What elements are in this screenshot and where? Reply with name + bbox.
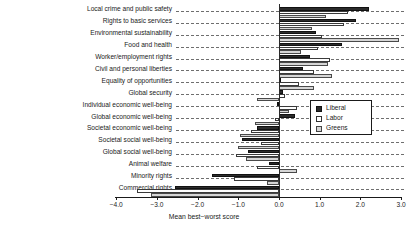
bar-greens bbox=[279, 86, 314, 90]
bar-liberal bbox=[279, 114, 295, 118]
x-tick-label: 1.0 bbox=[315, 201, 324, 208]
legend-item-labor[interactable]: Labor bbox=[316, 114, 343, 123]
x-tick-label: −3.0 bbox=[150, 201, 163, 208]
bar-greens bbox=[255, 122, 279, 126]
bar-chart: Local crime and public safetyRights to b… bbox=[0, 0, 408, 233]
legend-label-liberal: Liberal bbox=[326, 105, 346, 112]
gridline bbox=[176, 94, 404, 95]
legend-swatch-greens-icon bbox=[316, 126, 322, 132]
x-axis-label: Mean best−worst score bbox=[0, 213, 408, 220]
x-tick bbox=[238, 197, 239, 200]
zero-reference-line bbox=[279, 4, 280, 197]
bar-greens bbox=[238, 146, 279, 150]
bar-greens bbox=[267, 181, 279, 185]
legend-item-greens[interactable]: Greens bbox=[316, 124, 348, 133]
gridline bbox=[176, 178, 404, 179]
bar-greens bbox=[279, 27, 312, 31]
x-axis-line bbox=[115, 197, 401, 198]
bar-greens bbox=[240, 134, 279, 138]
bar-greens bbox=[279, 15, 326, 19]
bar-greens bbox=[279, 38, 399, 42]
legend-swatch-liberal-icon bbox=[316, 106, 322, 112]
bar-greens bbox=[279, 62, 328, 66]
gridline bbox=[176, 154, 404, 155]
chart-legend: Liberal Labor Greens bbox=[310, 100, 372, 135]
gridline bbox=[176, 166, 404, 167]
bar-labor bbox=[257, 166, 279, 170]
bar-greens bbox=[279, 169, 297, 173]
x-tick-label: 3.0 bbox=[397, 201, 406, 208]
bar-greens bbox=[279, 74, 332, 78]
legend-item-liberal[interactable]: Liberal bbox=[316, 104, 346, 113]
x-tick bbox=[320, 197, 321, 200]
x-tick bbox=[116, 197, 117, 200]
x-tick-label: 0.0 bbox=[274, 201, 283, 208]
x-tick bbox=[401, 197, 402, 200]
bar-greens bbox=[279, 110, 289, 114]
x-tick bbox=[157, 197, 158, 200]
legend-label-greens: Greens bbox=[326, 125, 348, 132]
x-tick-label: 2.0 bbox=[356, 201, 365, 208]
bar-greens bbox=[257, 98, 279, 102]
x-tick bbox=[279, 197, 280, 200]
legend-swatch-labor-icon bbox=[316, 116, 322, 122]
x-tick bbox=[360, 197, 361, 200]
x-tick-label: −4.0 bbox=[110, 201, 123, 208]
gridline bbox=[176, 142, 404, 143]
x-tick bbox=[198, 197, 199, 200]
x-tick-label: −2.0 bbox=[191, 201, 204, 208]
bar-greens bbox=[279, 50, 301, 54]
x-tick-label: −1.0 bbox=[232, 201, 245, 208]
bar-greens bbox=[246, 157, 279, 161]
legend-label-labor: Labor bbox=[326, 115, 343, 122]
